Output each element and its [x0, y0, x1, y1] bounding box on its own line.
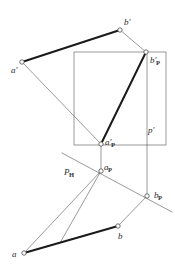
- a-p-vertex: [99, 169, 103, 173]
- label-p-prime: p′: [148, 126, 154, 135]
- label-b-prime-p: b′P: [150, 56, 160, 65]
- trace-ph: [62, 153, 172, 212]
- label-a-prime-p: a′P: [105, 138, 115, 147]
- label-a-prime: a′: [11, 66, 17, 75]
- label-b-prime: b′: [124, 18, 130, 27]
- a-p-to-a-plan: [24, 171, 101, 253]
- label-p-h: PH: [64, 168, 75, 177]
- b-prime-p-vertex: [144, 50, 148, 54]
- descriptive-geometry-figure: [0, 0, 175, 273]
- label-a-plan: a: [12, 250, 17, 259]
- b-p-vertex: [145, 194, 149, 198]
- a-prime-to-a-prime-p: [22, 62, 101, 144]
- a-plan-vertex: [22, 251, 26, 255]
- vertex-markers: [20, 28, 149, 255]
- b-prime-to-b-prime-p: [120, 30, 146, 52]
- frontal-trace-segment: [101, 52, 146, 144]
- frontal-projection-ab: [22, 30, 120, 62]
- label-a-p: aP: [104, 163, 112, 172]
- label-b-p: bP: [154, 191, 162, 200]
- horizontal-projection-ab: [24, 226, 118, 253]
- bold-projection-lines: [22, 30, 146, 253]
- a-prime-p-vertex: [99, 142, 103, 146]
- b-prime-vertex: [118, 28, 122, 32]
- label-b-plan: b: [118, 232, 123, 241]
- b-plan-vertex: [116, 224, 120, 228]
- a-prime-vertex: [20, 60, 24, 64]
- b-p-to-b-plan: [118, 196, 147, 226]
